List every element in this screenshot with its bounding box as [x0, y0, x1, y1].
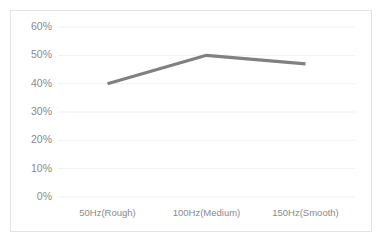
x-axis-tick-label: 100Hz(Medium) — [173, 207, 241, 219]
x-axis-tick-label: 150Hz(Smooth) — [272, 207, 339, 219]
x-axis-tick-label: 50Hz(Rough) — [79, 207, 136, 219]
x-axis-tick-labels: 50Hz(Rough)100Hz(Medium)150Hz(Smooth) — [0, 0, 383, 242]
